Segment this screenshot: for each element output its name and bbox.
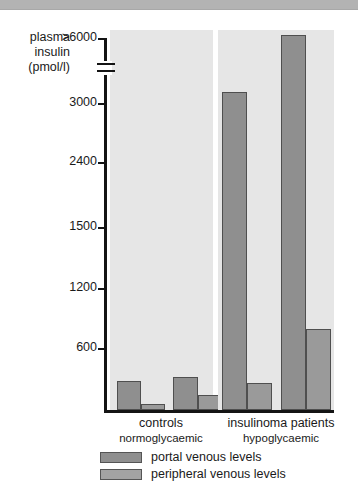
legend-label-peripheral: peripheral venous levels bbox=[151, 467, 286, 481]
y-axis-tick: 2400 bbox=[60, 162, 106, 163]
y-axis-title-line-3: (pmol/l) bbox=[4, 60, 70, 75]
plot-panel-controls bbox=[110, 30, 213, 410]
scan-edge-artifact bbox=[0, 0, 358, 10]
y-axis-tick-mark-icon bbox=[98, 38, 106, 40]
bar bbox=[281, 35, 306, 410]
y-axis-tick-mark-icon bbox=[98, 162, 106, 164]
category-label-insulinoma-sub: hypoglycaemic bbox=[208, 431, 354, 446]
y-axis-title-line-2: insulin bbox=[4, 45, 70, 60]
bar bbox=[247, 383, 272, 410]
chart-legend: portal venous levels peripheral venous l… bbox=[100, 450, 350, 484]
y-axis-tick-label: 2400 bbox=[69, 154, 97, 168]
legend-item-peripheral: peripheral venous levels bbox=[100, 467, 350, 481]
y-axis-tick: >6000 bbox=[60, 38, 106, 39]
y-axis-tick-label: 1200 bbox=[69, 280, 97, 294]
legend-swatch-portal-icon bbox=[100, 452, 142, 463]
bar bbox=[117, 381, 141, 410]
category-label-insulinoma: insulinoma patients hypoglycaemic bbox=[208, 416, 354, 446]
y-axis-line bbox=[104, 38, 107, 413]
y-axis-tick-label: 3000 bbox=[69, 95, 97, 109]
y-axis-tick: 3000 bbox=[60, 103, 106, 104]
category-label-controls-sub: normoglycaemic bbox=[96, 431, 226, 446]
legend-label-portal: portal venous levels bbox=[151, 450, 261, 464]
y-axis-tick-mark-icon bbox=[98, 103, 106, 105]
y-axis-tick: 1500 bbox=[60, 227, 106, 228]
y-axis-tick-mark-icon bbox=[98, 348, 106, 350]
y-axis-tick-mark-icon bbox=[98, 227, 106, 229]
y-axis-title: plasma insulin (pmol/l) bbox=[4, 30, 70, 75]
y-axis-tick: 1200 bbox=[60, 288, 106, 289]
y-axis-tick-label: >6000 bbox=[62, 30, 97, 44]
x-axis-baseline bbox=[104, 410, 334, 413]
y-axis-break-icon bbox=[97, 61, 115, 75]
category-label-controls-main: controls bbox=[96, 416, 226, 431]
bar bbox=[173, 377, 198, 410]
legend-item-portal: portal venous levels bbox=[100, 450, 350, 464]
y-axis-tick-mark-icon bbox=[98, 288, 106, 290]
bar bbox=[306, 329, 331, 410]
legend-swatch-peripheral-icon bbox=[100, 469, 142, 480]
plot-panel-insulinoma bbox=[218, 30, 334, 410]
bar bbox=[222, 92, 247, 410]
y-axis-tick: 600 bbox=[60, 348, 106, 349]
category-label-controls: controls normoglycaemic bbox=[96, 416, 226, 446]
insulin-bar-chart-figure: plasma insulin (pmol/l) >600030002400150… bbox=[0, 0, 358, 485]
y-axis-tick-label: 600 bbox=[76, 340, 97, 354]
y-axis-tick-label: 1500 bbox=[69, 219, 97, 233]
category-label-insulinoma-main: insulinoma patients bbox=[208, 416, 354, 431]
